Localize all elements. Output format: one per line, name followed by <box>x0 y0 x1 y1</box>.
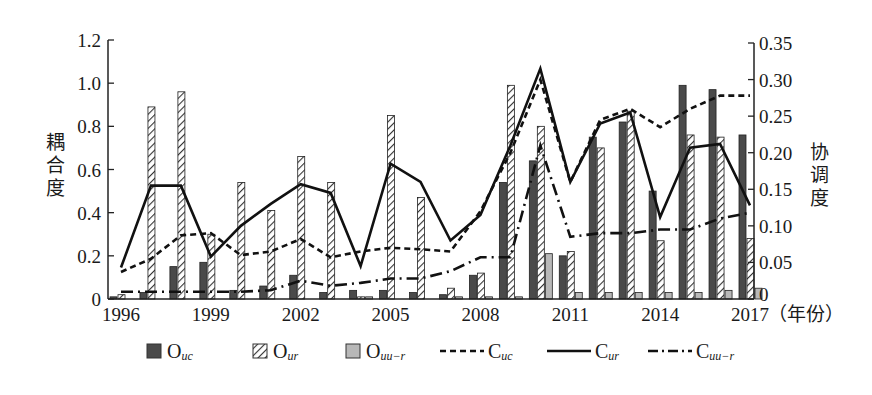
bar-our-2001 <box>268 211 275 299</box>
left-axis-title: 度 <box>46 177 65 199</box>
right-tick-label: 0.05 <box>759 252 792 273</box>
legend: OucOurOuu−rCucCurCuu−r <box>147 340 734 363</box>
legend-swatch <box>346 344 360 358</box>
x-tick-label: 2002 <box>282 304 320 325</box>
legend-label: Cuc <box>488 340 513 363</box>
x-tick-label: 2017 <box>731 304 769 325</box>
right-tick-label: 0.35 <box>759 33 792 54</box>
right-axis-title: 调 <box>810 164 829 186</box>
bar-our-2008 <box>477 273 484 299</box>
right-tick-label: 0 <box>759 284 769 305</box>
right-axis-title: 协 <box>810 141 829 163</box>
bar-ouc-2006 <box>410 293 417 299</box>
bar-our-2005 <box>388 116 395 299</box>
legend-swatch <box>253 344 267 358</box>
bar-ouc-2011 <box>559 256 566 299</box>
x-tick-label: 2005 <box>372 304 410 325</box>
left-axis-title: 耦 <box>46 131 65 153</box>
legend-label: Ouu−r <box>366 340 406 363</box>
bar-our-2017 <box>747 239 754 299</box>
bar-ouur-2014 <box>665 293 672 299</box>
bar-our-2014 <box>657 241 664 299</box>
bar-our-2009 <box>507 85 514 299</box>
bar-our-2002 <box>298 157 305 299</box>
x-tick-label: 2011 <box>552 304 589 325</box>
bar-ouur-2010 <box>545 254 552 299</box>
x-axis-unit: （年份） <box>768 303 844 325</box>
x-tick-label: 2008 <box>461 304 499 325</box>
bar-ouc-2014 <box>649 191 656 299</box>
right-tick-label: 0.30 <box>759 70 792 91</box>
legend-label: Cuu−r <box>696 340 734 363</box>
bar-our-1999 <box>208 234 215 299</box>
bar-ouc-1999 <box>200 262 207 299</box>
legend-label: Cur <box>595 340 619 363</box>
bars-layer <box>110 85 762 299</box>
left-tick-label: 0.2 <box>77 246 101 267</box>
chart-container: 00.20.40.60.81.01.200.050.100.150.200.25… <box>0 0 872 395</box>
bar-ouur-2015 <box>695 293 702 299</box>
bar-our-2013 <box>627 111 634 299</box>
right-tick-label: 0.15 <box>759 179 792 200</box>
left-tick-label: 0.4 <box>77 203 101 224</box>
bar-ouc-2015 <box>679 85 686 299</box>
bar-our-2012 <box>597 148 604 299</box>
right-axis-title: 度 <box>810 187 829 209</box>
right-tick-label: 0.25 <box>759 106 792 127</box>
bar-our-2011 <box>567 252 574 299</box>
coupling-coordination-chart: 00.20.40.60.81.01.200.050.100.150.200.25… <box>0 0 872 395</box>
bar-ouur-2012 <box>605 293 612 299</box>
bar-ouc-1998 <box>170 267 177 299</box>
bar-ouur-2011 <box>575 293 582 299</box>
bar-ouc-1997 <box>140 293 147 299</box>
bar-ouur-2016 <box>725 290 732 299</box>
left-tick-label: 1.0 <box>77 73 101 94</box>
bar-ouc-2001 <box>260 286 267 299</box>
legend-label: Our <box>273 340 298 363</box>
x-tick-label: 1996 <box>102 304 140 325</box>
x-tick-label: 1999 <box>192 304 230 325</box>
bar-ouc-2012 <box>589 137 596 299</box>
left-tick-label: 0.6 <box>77 160 101 181</box>
bar-ouc-2008 <box>469 275 476 299</box>
bar-our-1997 <box>148 107 155 299</box>
bar-ouc-2002 <box>290 275 297 299</box>
bar-ouc-2013 <box>619 122 626 299</box>
bar-ouc-2017 <box>739 135 746 299</box>
bar-ouur-2013 <box>635 293 642 299</box>
bar-ouc-2005 <box>380 290 387 299</box>
bar-our-2015 <box>687 135 694 299</box>
bar-ouc-2004 <box>350 290 357 299</box>
bar-our-2007 <box>447 288 454 299</box>
left-tick-label: 1.2 <box>77 30 101 51</box>
legend-swatch <box>147 344 161 358</box>
left-axis-title: 合 <box>46 154 65 176</box>
x-tick-label: 2014 <box>641 304 680 325</box>
legend-label: Ouc <box>167 340 193 363</box>
bar-our-2000 <box>238 182 245 299</box>
right-tick-label: 0.10 <box>759 216 792 237</box>
left-tick-label: 0 <box>92 289 102 310</box>
left-tick-label: 0.8 <box>77 116 101 137</box>
right-tick-label: 0.20 <box>759 143 792 164</box>
bar-ouc-2016 <box>709 90 716 299</box>
bar-ouc-2003 <box>320 293 327 299</box>
bar-ouc-2009 <box>499 182 506 299</box>
